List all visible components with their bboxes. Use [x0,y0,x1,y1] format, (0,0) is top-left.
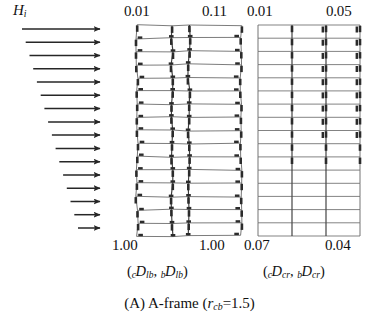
plastic-hinge-marker [359,39,362,45]
plastic-hinge-marker [187,48,192,50]
frame-beam [190,51,242,52]
plastic-hinge-marker [325,105,328,111]
frame-beam [136,196,171,197]
plastic-hinge-marker [240,118,243,124]
plastic-hinge-marker [136,25,139,31]
plastic-hinge-marker [235,114,240,116]
plastic-hinge-marker [171,224,174,230]
plastic-hinge-marker [187,207,192,209]
plastic-hinge-marker [235,195,240,197]
plastic-hinge-marker [240,184,243,190]
plastic-hinge-marker [136,184,139,190]
frame-beam [137,25,172,26]
left-frame-drawing [135,25,244,237]
plastic-hinge-marker [187,132,190,138]
plastic-hinge-marker [171,167,176,169]
plastic-hinge-marker [322,40,324,46]
plastic-hinge-marker [359,92,362,98]
plastic-hinge-marker [171,49,176,51]
frame-beam [172,25,189,26]
frame-beam [171,197,188,198]
plastic-hinge-marker [187,167,192,169]
plastic-hinge-marker [356,53,358,59]
frame-drawing-layer [0,0,379,327]
plastic-hinge-marker [240,66,243,72]
plastic-hinge-marker [239,79,242,85]
plastic-hinge-marker [169,195,174,197]
plastic-hinge-marker [234,154,239,156]
plastic-hinge-marker [291,65,294,71]
plastic-hinge-marker [136,118,139,124]
plastic-hinge-marker [139,154,144,156]
plastic-hinge-marker [186,61,191,63]
plastic-hinge-marker [325,39,328,45]
plastic-hinge-marker [187,141,192,143]
frame-beam [137,156,171,157]
plastic-hinge-marker [187,197,190,203]
plastic-hinge-marker [291,39,294,45]
plastic-hinge-marker [169,155,174,157]
plastic-hinge-marker [325,118,328,124]
plastic-hinge-marker [138,167,143,169]
plastic-hinge-marker [140,76,145,78]
plastic-hinge-marker [171,131,174,137]
plastic-hinge-marker [139,127,144,129]
plastic-hinge-marker [170,158,173,164]
plastic-hinge-marker [135,171,138,177]
plastic-hinge-marker [235,207,240,209]
plastic-hinge-marker [172,79,175,85]
plastic-hinge-marker [325,79,328,85]
plastic-hinge-marker [234,233,239,235]
plastic-hinge-marker [235,128,240,130]
plastic-hinge-marker [170,88,175,90]
frame-beam [172,144,189,145]
plastic-hinge-marker [139,115,144,117]
plastic-hinge-marker [356,106,358,112]
frame-beam [189,25,242,26]
plastic-hinge-marker [186,75,191,77]
plastic-hinge-marker [188,51,191,57]
plastic-hinge-marker [135,52,138,58]
plastic-hinge-marker [291,118,294,124]
plastic-hinge-marker [359,118,362,124]
frame-beam [171,64,188,65]
plastic-hinge-marker [359,131,362,137]
plastic-hinge-marker [235,49,240,51]
plastic-hinge-marker [187,224,190,230]
plastic-hinge-marker [136,105,139,111]
plastic-hinge-marker [170,117,173,123]
plastic-hinge-marker [189,38,192,44]
plastic-hinge-marker [171,91,174,97]
plastic-hinge-marker [170,66,173,72]
plastic-hinge-marker [322,27,324,33]
plastic-hinge-marker [170,105,173,111]
plastic-hinge-marker [186,233,191,235]
plastic-hinge-marker [241,26,244,32]
plastic-hinge-marker [359,158,362,164]
plastic-hinge-marker [322,106,324,112]
plastic-hinge-marker [139,180,144,182]
plastic-hinge-marker [291,158,294,164]
plastic-hinge-marker [171,76,176,78]
plastic-hinge-marker [240,210,243,216]
plastic-hinge-marker [234,35,239,37]
plastic-hinge-marker [138,234,143,236]
plastic-hinge-marker [186,194,191,196]
plastic-hinge-marker [135,197,138,203]
plastic-hinge-marker [291,105,294,111]
plastic-hinge-marker [169,207,174,209]
plastic-hinge-marker [359,26,362,32]
plastic-hinge-marker [188,35,193,37]
plastic-hinge-marker [188,210,191,216]
plastic-hinge-marker [170,39,173,45]
plastic-hinge-marker [356,92,358,98]
plastic-hinge-marker [170,221,175,223]
frame-beam [172,223,189,224]
plastic-hinge-marker [325,92,328,98]
plastic-hinge-marker [186,181,191,183]
plastic-hinge-marker [188,26,191,32]
plastic-hinge-marker [241,171,244,177]
plastic-hinge-marker [236,168,241,170]
frame-beam [188,78,240,79]
plastic-hinge-marker [322,53,324,59]
